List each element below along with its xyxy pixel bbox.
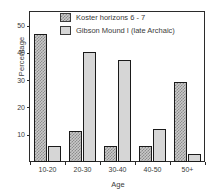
x-axis-title: Age [28,180,208,189]
x-axis-tick-mark [205,162,206,165]
y-axis-tick-label: 10 [9,131,25,138]
x-axis-tick-mark [65,162,66,165]
legend-swatch-icon-gibson [60,26,71,35]
x-axis-tick-mark [135,162,136,165]
legend-entry-gibson: Gibson Mound I (late Archaic) [60,26,175,35]
bar-gibson-50+ [188,154,202,162]
legend-label-koster: Koster horizons 6 - 7 [76,13,145,22]
y-axis-tick-label: 40 [9,49,25,56]
bar-chart-figure: Percentage 1020304050 10-2020-3030-4040-… [0,0,213,196]
legend-swatch-icon-koster [60,13,71,22]
x-axis-tick-mark [170,162,171,165]
legend-entry-koster: Koster horizons 6 - 7 [60,13,145,22]
y-axis-tick-label: 20 [9,104,25,111]
bar-gibson-30-40 [118,60,132,162]
y-axis-tick-label: 50 [9,22,25,29]
bar-koster-10-20 [34,34,48,162]
x-axis-tick-label: 40-50 [133,166,173,173]
bar-koster-20-30 [69,131,83,162]
x-axis-tick-label: 10-20 [28,166,68,173]
bar-gibson-20-30 [83,52,97,162]
bar-koster-30-40 [104,146,118,162]
bar-gibson-10-20 [48,146,62,162]
bar-koster-40-50 [139,146,153,162]
bar-koster-50+ [174,82,188,162]
x-axis-tick-label: 20-30 [63,166,103,173]
bar-gibson-40-50 [153,129,167,162]
x-axis-tick-label: 30-40 [98,166,138,173]
y-axis-tick-label: 30 [9,77,25,84]
x-axis-tick-label: 50+ [168,166,208,173]
x-axis-tick-mark [100,162,101,165]
legend-label-gibson: Gibson Mound I (late Archaic) [76,26,175,35]
x-axis-tick-mark [30,162,31,165]
